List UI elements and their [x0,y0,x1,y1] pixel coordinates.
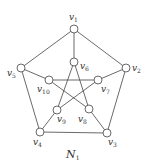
node-v10 [45,76,53,84]
label-v3: v3 [108,137,117,148]
edge-v3-v8 [89,109,107,133]
node-v4 [36,128,44,136]
label-v6: v6 [80,61,89,72]
edge-v4-v5 [21,68,40,132]
node-v5 [17,64,25,72]
edge-v5-v10 [21,68,49,80]
label-v4: v4 [33,137,42,148]
node-v1 [70,25,78,33]
node-v9 [53,106,61,114]
node-v7 [94,76,102,84]
label-v10: v10 [37,84,50,95]
label-v5: v5 [7,68,16,79]
edge-v2-v3 [107,68,126,133]
graph-caption: N1 [65,148,79,161]
graph-nodes [17,25,130,137]
edge-v3-v4 [40,132,107,133]
node-v2 [122,64,130,72]
edge-v6-v9 [57,62,74,110]
node-v6 [70,58,78,66]
edge-v2-v7 [98,68,126,80]
node-v3 [103,129,111,137]
label-v2: v2 [132,63,141,74]
petersen-graph-diagram: v1v2v3v4v5v6v7v8v9v10 N1 [0,0,150,167]
edge-v7-v9 [57,80,98,110]
graph-edges [21,29,126,133]
edge-v5-v1 [21,29,74,68]
label-v7: v7 [101,84,110,95]
label-v8: v8 [78,114,87,125]
edge-v8-v10 [49,80,89,109]
node-v8 [85,105,93,113]
label-v1: v1 [69,12,78,23]
label-v9: v9 [57,114,66,125]
